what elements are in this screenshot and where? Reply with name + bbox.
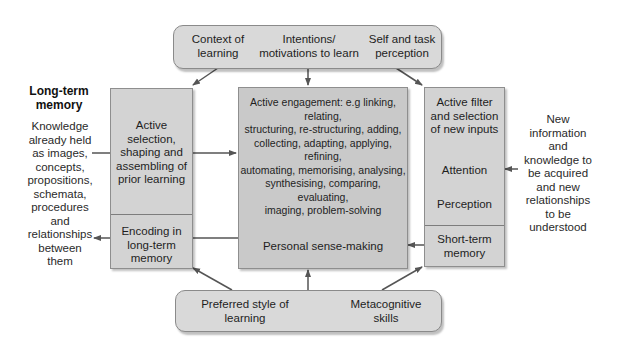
- preferred-style-label: Preferred style of learning: [190, 298, 300, 325]
- perception-label: Perception: [425, 198, 504, 212]
- active-selection-line: prior learning: [111, 173, 192, 187]
- knowledge-line: concepts,: [26, 161, 94, 175]
- active-selection-label: Activeselection,shaping andassembling of…: [111, 119, 192, 187]
- preferred-line2: learning: [190, 312, 300, 326]
- knowledge-line: propositions,: [26, 174, 94, 188]
- short-term-memory-label: Short-termmemory: [425, 233, 504, 260]
- arrow-self-to-right: [396, 68, 422, 85]
- engagement-line: Active engagement: e.g linking, relating…: [239, 96, 407, 123]
- metacognitive-line2: skills: [346, 312, 426, 326]
- new-info-line: to be: [520, 208, 596, 222]
- knowledge-line: them: [26, 255, 94, 269]
- engagement-line: automating, memorising, analysing,: [239, 164, 407, 178]
- new-info-line: be acquired: [520, 167, 596, 181]
- knowledge-line: relationships: [26, 228, 94, 242]
- new-info-line: New: [520, 113, 596, 127]
- engagement-line: synthesising, comparing, evaluating,: [239, 177, 407, 204]
- knowledge-line: already held: [26, 134, 94, 148]
- top-factors-box: Context of learning Intentions/ motivati…: [173, 25, 442, 69]
- metacognitive-line1: Metacognitive: [346, 298, 426, 312]
- self-task-label: Self and task perception: [364, 33, 440, 60]
- context-line1: Context of: [178, 33, 258, 47]
- active-selection-line: shaping and: [111, 146, 192, 160]
- metacognitive-label: Metacognitive skills: [346, 298, 426, 325]
- preferred-line1: Preferred style of: [190, 298, 300, 312]
- knowledge-line: schemata,: [26, 188, 94, 202]
- active-selection-line: assembling of: [111, 160, 192, 174]
- short-term-line: Short-term: [425, 233, 504, 247]
- knowledge-line: procedures: [26, 201, 94, 215]
- new-info-line: and: [520, 140, 596, 154]
- active-filter-label: Active filterand selectionof new inputs: [425, 96, 504, 137]
- filter-line: and selection: [425, 110, 504, 124]
- engagement-line: collecting, adapting, applying, refining…: [239, 137, 407, 164]
- active-selection-line: Active: [111, 119, 192, 133]
- self-task-line1: Self and task: [364, 33, 440, 47]
- attention-label: Attention: [425, 164, 504, 178]
- filter-line: of new inputs: [425, 123, 504, 137]
- knowledge-line: and: [26, 215, 94, 229]
- new-info-line: understood: [520, 221, 596, 235]
- long-term-memory-title: Long-term memory: [20, 84, 98, 112]
- title-line1: Long-term: [20, 84, 98, 98]
- intentions-line2: motivations to learn: [254, 47, 364, 61]
- arrow-metacognitive-to-right: [382, 267, 422, 290]
- new-info-line: knowledge to: [520, 154, 596, 168]
- new-info-line: relationships: [520, 194, 596, 208]
- arrow-context-to-left: [193, 68, 218, 85]
- right-box-divider: [425, 225, 504, 226]
- context-of-learning-label: Context of learning: [178, 33, 258, 60]
- new-information-description: Newinformationandknowledge tobe acquired…: [520, 113, 596, 235]
- encoding-label: Encoding inlong-termmemory: [111, 225, 192, 266]
- engagement-line: structuring, re-structuring, adding,: [239, 123, 407, 137]
- encoding-line: Encoding in: [111, 225, 192, 239]
- active-selection-line: selection,: [111, 133, 192, 147]
- left-process-box: Activeselection,shaping andassembling of…: [110, 88, 193, 269]
- context-line2: learning: [178, 47, 258, 61]
- knowledge-line: between: [26, 242, 94, 256]
- knowledge-description: Knowledgealready heldas images,concepts,…: [26, 120, 94, 269]
- encoding-line: long-term: [111, 239, 192, 253]
- filter-line: Active filter: [425, 96, 504, 110]
- title-line2: memory: [20, 98, 98, 112]
- right-input-box: Active filterand selectionof new inputs …: [424, 87, 505, 267]
- arrow-preferred-to-left: [193, 268, 232, 290]
- left-box-divider: [111, 214, 192, 215]
- self-task-line2: perception: [364, 47, 440, 61]
- intentions-line1: Intentions/: [254, 33, 364, 47]
- engagement-line: imaging, problem-solving: [239, 204, 407, 218]
- knowledge-line: as images,: [26, 147, 94, 161]
- active-engagement-box: Active engagement: e.g linking, relating…: [238, 87, 408, 269]
- short-term-line: memory: [425, 247, 504, 261]
- new-info-line: and new: [520, 181, 596, 195]
- personal-sense-making-label: Personal sense-making: [239, 240, 407, 254]
- intentions-label: Intentions/ motivations to learn: [254, 33, 364, 60]
- active-engagement-text: Active engagement: e.g linking, relating…: [239, 96, 407, 218]
- encoding-line: memory: [111, 252, 192, 266]
- knowledge-line: Knowledge: [26, 120, 94, 134]
- new-info-line: information: [520, 127, 596, 141]
- bottom-factors-box: Preferred style of learning Metacognitiv…: [175, 290, 442, 332]
